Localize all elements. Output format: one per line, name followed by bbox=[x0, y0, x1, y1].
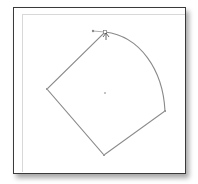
anchor-point-left[interactable] bbox=[46, 88, 48, 90]
anchor-point-bottom[interactable] bbox=[103, 154, 105, 156]
direct-selection-cursor-icon bbox=[103, 33, 109, 40]
shape-center-point bbox=[104, 92, 106, 94]
direction-handle-point[interactable] bbox=[92, 30, 94, 32]
anchor-point-right[interactable] bbox=[164, 110, 166, 112]
drawing-canvas[interactable] bbox=[0, 0, 198, 184]
